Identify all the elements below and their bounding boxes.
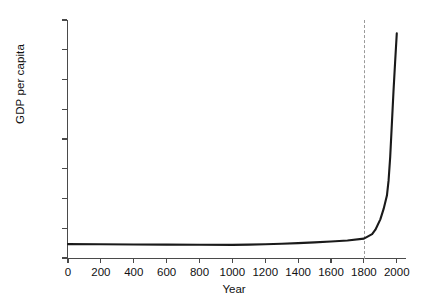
gdp-per-capita-chart: GDP per capita 01,0002,0003,0004,0005,00… <box>0 0 430 308</box>
series-layer <box>0 0 430 308</box>
x-axis-title: Year <box>0 283 430 295</box>
gdp-line <box>68 33 397 245</box>
x-axis-title-text: Year <box>222 283 245 295</box>
